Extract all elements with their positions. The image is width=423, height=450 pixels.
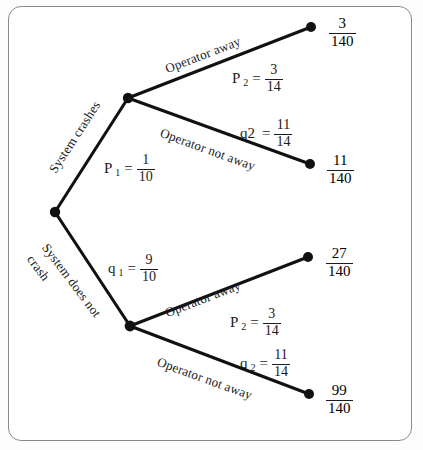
probability-q2-lower-equals: = [260, 356, 268, 371]
outcome-crash-not-away-numerator: 11 [331, 153, 349, 169]
probability-q1-var: q [108, 261, 116, 276]
outcome-nocrash-away-fraction: 27 140 [326, 246, 353, 279]
node-root [50, 207, 60, 217]
probability-p2-lower-denominator: 14 [263, 323, 281, 339]
probability-p2-lower: P2 = 3 14 [230, 307, 281, 338]
probability-p1-numerator: 1 [140, 153, 151, 168]
probability-q2-upper-numerator: 11 [275, 118, 292, 133]
probability-p1-denominator: 10 [137, 169, 155, 185]
outcome-nocrash-away: 27 140 [326, 244, 353, 279]
node-system-does-not-crash [125, 321, 136, 332]
outcome-nocrash-not-away-fraction: 99 140 [326, 383, 353, 416]
node-leaf-nocrash-away [303, 252, 313, 262]
probability-q2-lower-denominator: 14 [272, 364, 290, 380]
probability-q2-lower-fraction: 11 14 [272, 348, 290, 379]
probability-p1-var: P [104, 161, 112, 176]
outcome-crash-not-away-denominator: 140 [327, 170, 354, 187]
outcome-nocrash-not-away-denominator: 140 [326, 400, 353, 417]
node-system-crashes [123, 93, 133, 103]
probability-q2-upper-var: q2 [240, 126, 255, 141]
probability-q2-upper-denominator: 14 [274, 134, 292, 150]
probability-p2-lower-subscript: 2 [241, 322, 246, 332]
probability-q2-lower-var: q [240, 356, 248, 371]
probability-q2-lower-numerator: 11 [272, 348, 289, 363]
outcome-nocrash-away-numerator: 27 [330, 246, 349, 262]
outcome-nocrash-not-away-numerator: 99 [330, 383, 349, 399]
probability-q2-upper-fraction: 11 14 [274, 118, 292, 149]
probability-q2-lower: q2 = 11 14 [240, 348, 290, 379]
probability-p1-fraction: 1 10 [137, 153, 155, 184]
probability-p2-upper-equals: = [252, 71, 260, 86]
probability-p2-upper-fraction: 3 14 [265, 63, 283, 94]
outcome-nocrash-away-denominator: 140 [326, 263, 353, 280]
diagram-canvas: System crashes System does not crash P1 … [0, 0, 423, 450]
probability-p2-upper-numerator: 3 [268, 63, 279, 78]
probability-p2-upper: P2 = 3 14 [232, 63, 283, 94]
probability-q1-numerator: 9 [143, 253, 154, 268]
probability-q1-fraction: 9 10 [140, 253, 158, 284]
probability-p2-lower-fraction: 3 14 [263, 307, 281, 338]
probability-q2-lower-subscript: 2 [251, 363, 256, 373]
outcome-nocrash-not-away: 99 140 [326, 381, 353, 416]
probability-q2-upper-equals: = [262, 126, 270, 141]
outcome-crash-away-numerator: 3 [337, 16, 349, 32]
edge-crash-to-away [128, 27, 311, 98]
probability-p2-upper-var: P [232, 71, 240, 86]
probability-q1-denominator: 10 [140, 269, 158, 285]
outcome-crash-away-fraction: 3 140 [329, 16, 356, 49]
probability-q1: q1 = 9 10 [108, 253, 158, 284]
probability-p2-lower-var: P [230, 315, 238, 330]
outcome-crash-away: 3 140 [329, 14, 356, 49]
node-leaf-nocrash-not-away [304, 389, 314, 399]
node-leaf-crash-away [306, 22, 316, 32]
probability-p2-upper-subscript: 2 [243, 78, 248, 88]
outcome-crash-not-away-fraction: 11 140 [327, 153, 354, 186]
probability-p2-upper-denominator: 14 [265, 79, 283, 95]
probability-p1-equals: = [124, 161, 132, 176]
outcome-crash-away-denominator: 140 [329, 33, 356, 50]
node-leaf-crash-not-away [305, 159, 315, 169]
probability-p2-lower-numerator: 3 [266, 307, 277, 322]
probability-p1-subscript: 1 [115, 168, 120, 178]
probability-q1-equals: = [128, 261, 136, 276]
probability-q2-upper: q2 = 11 14 [240, 118, 292, 149]
outcome-crash-not-away: 11 140 [327, 151, 354, 186]
probability-p2-lower-equals: = [250, 315, 258, 330]
probability-p1: P1 = 1 10 [104, 153, 155, 184]
probability-q1-subscript: 1 [119, 268, 124, 278]
